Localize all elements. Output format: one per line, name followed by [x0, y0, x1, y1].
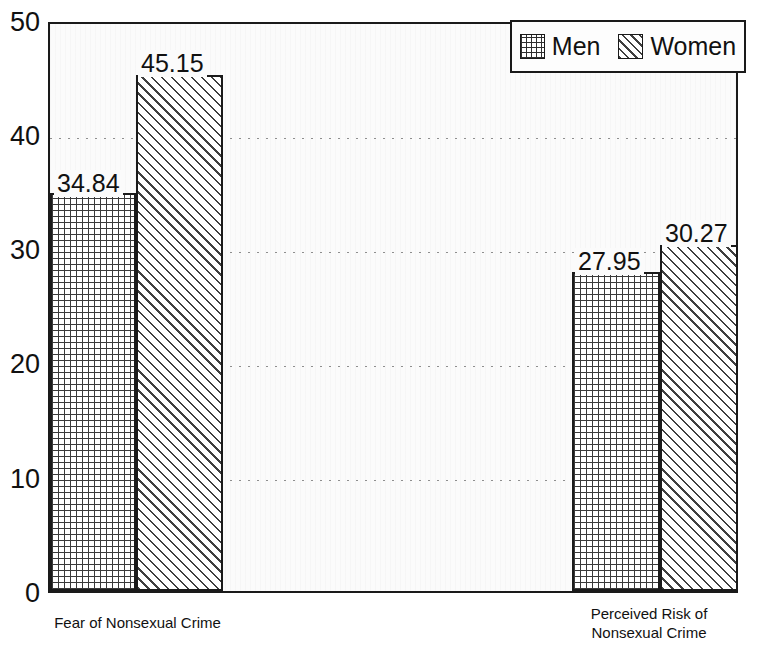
bar-women-fear-of-nonsexual-crime [136, 75, 223, 591]
legend-swatch-grid-icon [520, 34, 545, 59]
bar-chart: 50 40 30 20 10 0 34.84 45.15 27.95 30.27… [0, 0, 757, 647]
category-label-perceived-risk-of-nonsexual-crime: Perceived Risk of Nonsexual Crime [556, 604, 742, 642]
bar-men-perceived-risk-of-nonsexual-crime [572, 272, 660, 591]
y-tick-label-30: 30 [0, 237, 40, 264]
y-tick-label-20: 20 [0, 351, 40, 378]
value-label-men-perceived-risk: 27.95 [575, 248, 644, 275]
legend-swatch-diagonal-icon [618, 34, 643, 59]
category-label-line: Nonsexual Crime [556, 623, 742, 642]
legend: Men Women [510, 20, 746, 73]
legend-label-men: Men [552, 34, 601, 59]
y-tick-label-10: 10 [0, 466, 40, 493]
plot-area: 34.84 45.15 27.95 30.27 [48, 22, 738, 593]
category-label-line: Perceived Risk of [556, 604, 742, 623]
legend-entry-men: Men [520, 34, 601, 59]
y-tick-label-40: 40 [0, 123, 40, 150]
bar-men-fear-of-nonsexual-crime [50, 193, 136, 591]
y-tick-label-0: 0 [0, 580, 40, 607]
value-label-men-fear: 34.84 [54, 170, 123, 197]
value-label-women-fear: 45.15 [138, 50, 207, 77]
bar-women-perceived-risk-of-nonsexual-crime [660, 245, 738, 591]
y-tick-label-50: 50 [0, 9, 40, 36]
y-axis: 50 40 30 20 10 0 [0, 0, 40, 647]
value-label-women-perceived-risk: 30.27 [662, 220, 731, 247]
category-label-line: Fear of Nonsexual Crime [45, 613, 230, 632]
legend-label-women: Women [650, 34, 736, 59]
legend-entry-women: Women [618, 34, 736, 59]
category-label-fear-of-nonsexual-crime: Fear of Nonsexual Crime [45, 613, 230, 632]
